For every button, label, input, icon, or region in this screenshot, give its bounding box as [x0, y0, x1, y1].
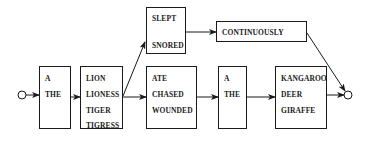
word: DEER [281, 90, 302, 99]
word: A [45, 74, 51, 83]
object-noun-box: KANGAROO DEER GIRAFFE [275, 66, 327, 129]
word: TIGRESS [86, 121, 119, 130]
word: LIONESS [86, 90, 119, 99]
transitive-verb-box: ATE CHASED WOUNDED [146, 66, 197, 129]
end-node [344, 91, 352, 99]
start-node [18, 91, 26, 99]
word: KANGAROO [281, 74, 327, 83]
edge-noun1-intrans [123, 42, 145, 96]
intransitive-verb-box: SLEPT SNORED [146, 7, 186, 54]
word: WOUNDED [152, 106, 193, 115]
word: LION [86, 74, 106, 83]
word: THE [45, 90, 61, 99]
word: SNORED [152, 41, 184, 50]
word: GIRAFFE [281, 106, 315, 115]
word: SLEPT [152, 14, 176, 23]
word: TIGER [86, 106, 111, 115]
subject-noun-box: LION LIONESS TIGER TIGRESS [80, 66, 123, 129]
word: ATE [152, 74, 167, 83]
word: CHASED [152, 90, 184, 99]
word: CONTINUOUSLY [222, 28, 284, 37]
determiner-box-1: A THE [39, 66, 71, 129]
determiner-box-2: A THE [218, 66, 247, 129]
word: A [224, 74, 230, 83]
word: THE [224, 90, 240, 99]
adverb-box: CONTINUOUSLY [216, 21, 307, 42]
